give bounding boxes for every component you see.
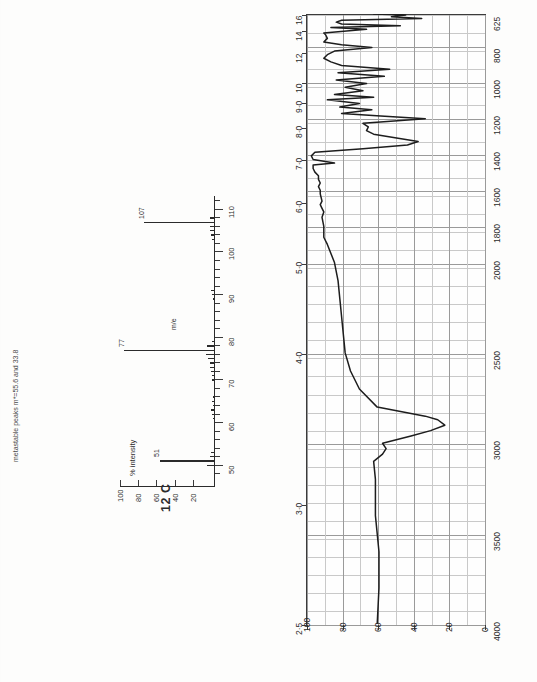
mass-axis-tick [215,277,220,278]
mass-axis-tick [215,414,220,415]
mass-axis-tick-label: 100 [227,248,236,261]
mass-axis-tick [215,439,220,440]
ir-transmittance-tick-label: 80 [338,623,348,632]
figure-label: 12 C [159,484,173,512]
ir-wavelength-tick-label: 8·0 [294,126,304,138]
mass-peak [206,354,215,355]
ir-wavelength-tick-label: 16 [294,16,304,25]
mass-peak [211,409,215,410]
mass-axis-tick [215,405,220,406]
mass-peak [144,222,215,223]
ir-wavelength-tick-label: 5·0 [294,261,304,273]
mass-axis-tick [215,456,220,457]
intensity-axis-tick [138,480,139,486]
mass-axis-tick [215,217,220,218]
ir-transmittance-tick-label: 0 [480,627,490,632]
mass-peak-label: 51 [153,450,160,458]
mass-axis-tick [215,354,220,355]
mass-peak [210,230,215,231]
ir-gridline-transmittance [485,15,486,625]
mass-axis-tick [215,328,220,329]
mass-axis-tick [215,260,220,261]
ir-wavelength-tick-label: 10 [294,83,304,92]
mass-axis-tick [215,286,220,287]
ir-wavenumber-tick-label: 1200 [492,116,502,135]
mass-axis-tick [215,465,223,466]
ir-wavenumber-tick-label: 800 [492,48,502,62]
mass-axis-tick [215,311,220,312]
ir-wavenumber-tick-label: 3000 [492,441,502,460]
mass-axis-tick [215,396,220,397]
intensity-axis-tick-label: 20 [189,494,198,502]
mass-peak [213,298,215,299]
mass-peak [207,345,215,346]
ir-wavenumber-tick-label: 4000 [492,622,502,641]
mass-peak [212,341,215,342]
mass-axis-tick-label: 60 [227,423,236,431]
ir-wavenumber-tick-label: 1000 [492,80,502,99]
mass-axis-tick [215,362,220,363]
mass-axis-tick [215,371,220,372]
mass-spectrum-panel: metastable peaks m*=55.6 and 33.8 506070… [0,0,275,682]
mass-axis-tick [215,251,223,252]
mass-peak-label: 107 [138,207,145,219]
mass-axis-tick-label: 110 [227,206,236,218]
mass-axis-tick [215,345,220,346]
mass-peak [124,350,215,351]
ir-transmittance-tick-label: 20 [444,623,454,632]
mass-axis-tick [215,422,223,423]
intensity-axis-tick [193,480,194,486]
mass-spectrum-x-axis-title: m/e [170,318,177,330]
mass-peak [211,290,215,291]
mass-axis-tick-label: 80 [227,337,236,345]
intensity-axis-tick-label: 80 [134,494,143,502]
ir-transmittance-tick-label: 60 [373,623,383,632]
mass-axis-tick [215,337,223,338]
ir-wavelength-tick-label: 9·0 [294,101,304,113]
mass-axis-tick [215,294,223,295]
mass-axis-tick [215,303,220,304]
ir-spectrum-panel: Wavelength, μm Wavenumber, cm-1 Transmit… [278,0,537,682]
intensity-axis-tick [120,480,121,486]
mass-peak [212,239,215,240]
ir-wavelength-tick-label: 7·0 [294,158,304,170]
mass-peak [160,460,216,461]
mass-axis-tick [215,379,223,380]
ir-wavenumber-tick-label: 2000 [492,261,502,280]
mass-axis-tick [215,209,223,210]
ir-wavelength-tick-label: 14 [294,32,304,41]
ir-wavelength-tick-label: 6·0 [294,201,304,213]
ir-wavenumber-tick-label: 1400 [492,152,502,171]
ir-wavenumber-tick-label: 625 [492,17,502,31]
mass-axis-tick [215,473,220,474]
intensity-axis-tick-label: 100 [116,489,125,502]
mass-axis-tick [215,234,220,235]
mass-peak [210,367,215,368]
mass-axis-tick [215,388,220,389]
mass-axis-tick [215,226,220,227]
intensity-axis-tick [156,480,157,486]
ir-wavelength-tick-label: 12 [294,53,304,62]
mass-axis-tick [215,200,220,201]
ir-wavelength-tick-label: 3·0 [294,502,304,514]
ir-wavenumber-tick-label: 3500 [492,532,502,551]
intensity-axis-tick [175,480,176,486]
spectra-figure-page: metastable peaks m*=55.6 and 33.8 506070… [0,0,537,682]
mass-spectrum-y-axis-title: % intensity [128,440,137,476]
mass-axis-tick-label: 90 [227,295,236,303]
ir-wavelength-tick-label: 4·0 [294,352,304,364]
ir-transmittance-tick-label: 40 [409,623,419,632]
mass-axis-tick [215,448,220,449]
mass-axis-tick [215,320,220,321]
mass-axis-tick-label: 50 [227,465,236,473]
mass-axis-tick [215,269,220,270]
mass-peak [212,375,215,376]
ir-wavenumber-tick-label: 1600 [492,188,502,207]
mass-peak [213,418,215,419]
mass-axis-tick [215,243,220,244]
mass-peak [211,452,215,453]
ir-transmittance-tick-label: 100 [302,618,312,632]
ir-wavenumber-tick-label: 1800 [492,224,502,243]
mass-peak [207,465,215,466]
ir-spectrum-trace [306,14,484,624]
